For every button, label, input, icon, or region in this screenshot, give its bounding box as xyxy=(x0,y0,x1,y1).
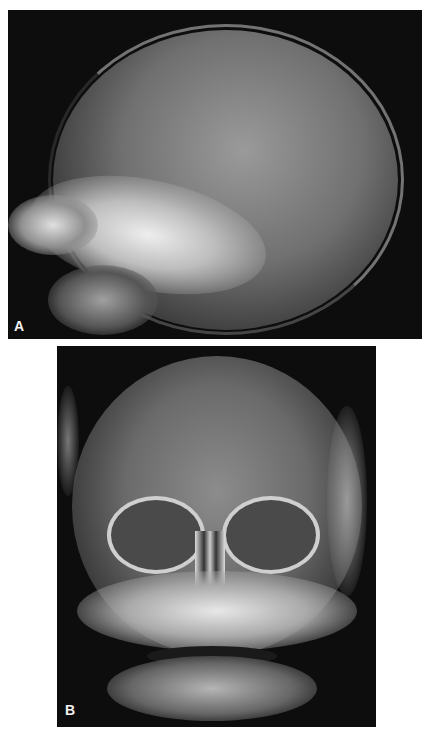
facial-bones xyxy=(8,195,98,255)
mandible xyxy=(48,265,158,335)
radiograph-panel-a: A xyxy=(8,10,422,339)
panel-label-b: B xyxy=(65,703,75,717)
orbit-left xyxy=(222,496,320,574)
panel-label-a: A xyxy=(14,319,24,333)
orbit-right xyxy=(107,496,205,574)
ear-left xyxy=(57,386,79,496)
ear-right xyxy=(327,406,367,596)
radiograph-panel-b: B xyxy=(57,346,376,727)
mandible-frontal xyxy=(107,656,317,721)
maxilla xyxy=(77,571,357,651)
